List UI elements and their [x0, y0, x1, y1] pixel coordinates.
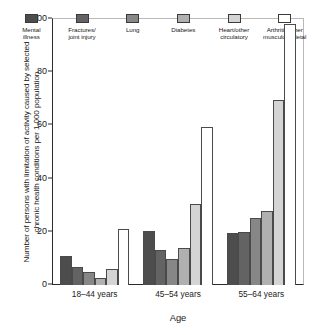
bar[interactable] — [250, 218, 262, 285]
bar-groups — [53, 19, 303, 285]
bar-group — [53, 19, 136, 285]
bar[interactable] — [261, 211, 273, 285]
x-axis-tick-labels: 18–44 years45–54 years55–64 years — [53, 288, 303, 302]
x-axis-tick-label: 55–64 years — [220, 288, 303, 302]
bar[interactable] — [95, 278, 107, 285]
bar[interactable] — [106, 269, 118, 285]
x-axis-tick-label: 18–44 years — [53, 288, 136, 302]
y-axis-tick-label: 40 — [37, 173, 47, 182]
bar-chart: Number of persons with limitation of act… — [0, 0, 314, 335]
bar[interactable] — [166, 259, 178, 285]
y-axis-tick-label: 60 — [37, 120, 47, 129]
bar[interactable] — [227, 233, 239, 285]
bar[interactable] — [143, 231, 155, 285]
bar[interactable] — [238, 232, 250, 285]
legend-item[interactable]: Mental illness — [6, 14, 57, 40]
bar[interactable] — [190, 204, 202, 285]
bar[interactable] — [273, 100, 285, 285]
bar-group — [136, 19, 219, 285]
y-axis-tick-label: 80 — [37, 67, 47, 76]
y-axis-tick-label: 0 — [42, 280, 47, 289]
legend-swatch-icon — [25, 14, 38, 23]
bar[interactable] — [60, 256, 72, 285]
bar[interactable] — [118, 229, 130, 285]
y-axis-tick-labels: 020406080100 — [26, 18, 47, 285]
bar-group — [220, 19, 303, 285]
bar[interactable] — [155, 250, 167, 285]
legend-item-label: Mental illness — [22, 26, 40, 40]
x-axis-tick-label: 45–54 years — [136, 288, 219, 302]
bar[interactable] — [201, 127, 213, 285]
bar[interactable] — [72, 267, 84, 285]
bar[interactable] — [178, 248, 190, 285]
y-axis-tick-label: 20 — [37, 226, 47, 235]
bar[interactable] — [83, 272, 95, 285]
x-axis-title: Age — [52, 312, 304, 323]
bar[interactable] — [284, 24, 296, 285]
